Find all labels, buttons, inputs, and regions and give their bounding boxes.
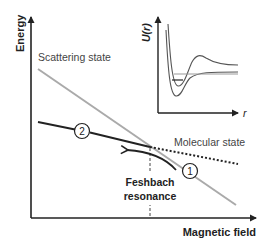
marker-2: 2 [75,124,90,139]
feshbach-diagram: Energy Magnetic field Scattering state M… [0,0,270,245]
x-axis-label: Magnetic field [183,226,256,238]
marker-1-label: 1 [187,166,193,177]
marker-2-label: 2 [79,126,85,137]
resonance-label-line2: resonance [124,190,177,202]
inset-y-label: U(r) [140,23,152,42]
inset-x-label: r [243,107,247,119]
resonance-label-line1: Feshbach [125,176,174,188]
scattering-state-label: Scattering state [38,51,111,63]
inset-potential-plot: U(r) r [140,17,247,119]
molecular-state-label: Molecular state [174,136,245,148]
open-channel-curve [166,30,238,96]
marker-1: 1 [183,164,198,179]
closed-channel-curve [168,24,238,86]
sweep-arrow [127,150,176,170]
y-axis-label: Energy [14,14,26,52]
